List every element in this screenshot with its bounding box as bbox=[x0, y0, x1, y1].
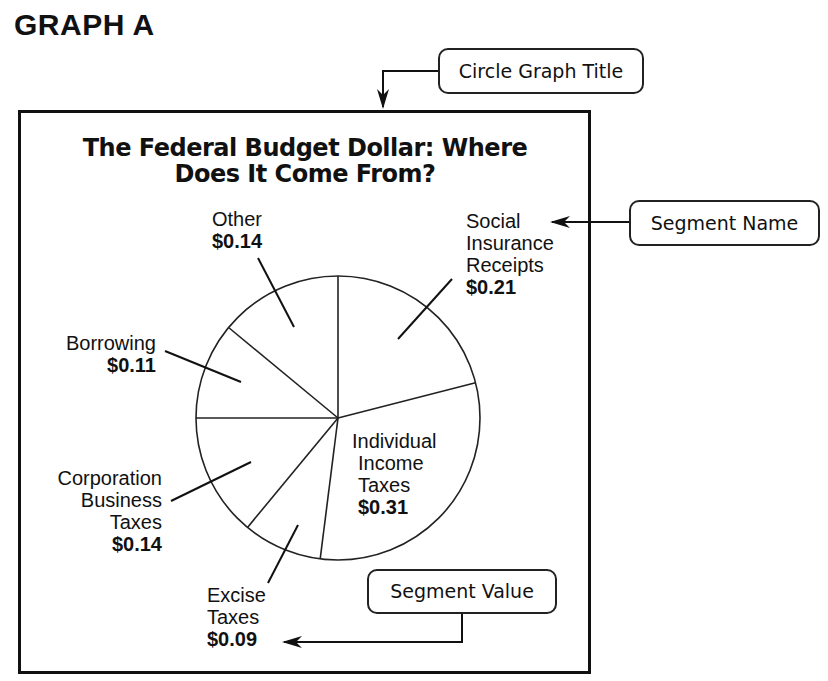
segment-value: $0.09 bbox=[207, 628, 266, 650]
segment-name-line: Excise bbox=[207, 584, 266, 606]
segment-name-line: Taxes bbox=[207, 606, 266, 628]
callout-segment-value: Segment Value bbox=[367, 569, 557, 614]
segment-name-line: Corporation bbox=[20, 467, 162, 489]
segment-label-individual-income: Individual Income Taxes $0.31 bbox=[352, 430, 437, 518]
segment-value: $0.21 bbox=[466, 276, 554, 298]
callout-circle-graph-title: Circle Graph Title bbox=[438, 48, 644, 94]
segment-name-line: Social bbox=[466, 210, 554, 232]
segment-name-line: Insurance bbox=[466, 232, 554, 254]
segment-value: $0.14 bbox=[20, 533, 162, 555]
callout-segment-name: Segment Name bbox=[629, 200, 820, 246]
segment-label-social-insurance: Social Insurance Receipts $0.21 bbox=[466, 210, 554, 298]
segment-label-other: Other $0.14 bbox=[212, 208, 262, 252]
segment-label-corporation: Corporation Business Taxes $0.14 bbox=[20, 467, 162, 555]
segment-value: $0.14 bbox=[212, 230, 262, 252]
segment-value: $0.31 bbox=[352, 496, 437, 518]
segment-name-line: Individual bbox=[352, 430, 437, 452]
segment-name-line: Receipts bbox=[466, 254, 554, 276]
segment-label-excise: Excise Taxes $0.09 bbox=[207, 584, 266, 650]
segment-name-line: Taxes bbox=[352, 474, 437, 496]
segment-label-borrowing: Borrowing $0.11 bbox=[20, 332, 156, 376]
segment-name-line: Income bbox=[352, 452, 437, 474]
segment-name-line: Taxes bbox=[20, 511, 162, 533]
segment-value: $0.11 bbox=[20, 354, 156, 376]
segment-name-line: Other bbox=[212, 208, 262, 230]
segment-name-line: Business bbox=[20, 489, 162, 511]
segment-name-line: Borrowing bbox=[20, 332, 156, 354]
